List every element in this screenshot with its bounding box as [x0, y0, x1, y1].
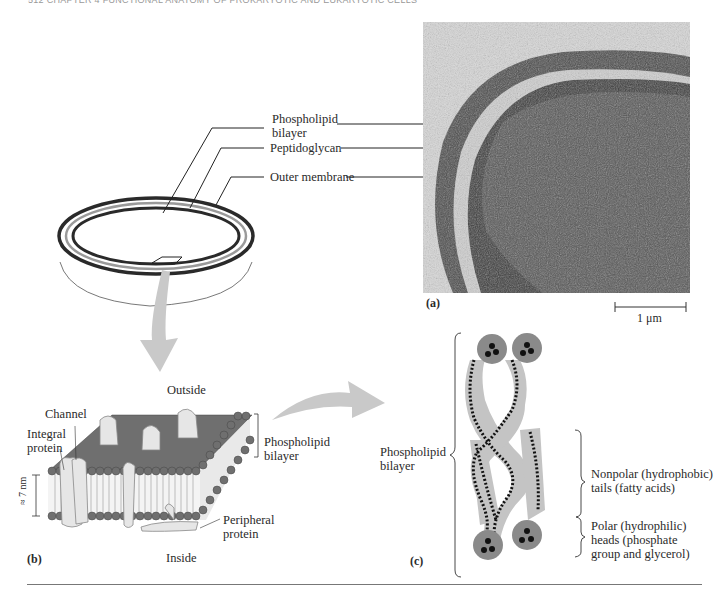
label-peripheral-protein: Peripheral protein	[223, 513, 274, 541]
label-outside: Outside	[167, 383, 206, 397]
panel-tag-c: (c)	[410, 554, 423, 569]
label-peptidoglycan: Peptidoglycan	[270, 141, 342, 155]
label-phospholipid-bilayer-a: Phospholipid bilayer	[272, 112, 338, 140]
label-polar-heads: Polar (hydrophilic) heads (phosphate gro…	[591, 519, 690, 561]
phospholipid-model	[450, 333, 585, 577]
label-outer-membrane: Outer membrane	[270, 170, 354, 184]
scale-bar-label: 1 μm	[637, 311, 662, 325]
label-inside: Inside	[166, 551, 197, 565]
label-phospholipid-bilayer-c: Phospholipid bilayer	[380, 445, 446, 473]
label-thickness: ≈ 7 nm	[16, 477, 30, 505]
label-channel: Channel	[45, 407, 87, 421]
arrow-right	[272, 381, 385, 420]
cell-envelope-diagram	[59, 124, 467, 306]
panel-tag-a: (a)	[426, 296, 440, 311]
label-phospholipid-bilayer-b: Phospholipid bilayer	[264, 435, 330, 463]
arrow-down	[140, 270, 178, 372]
label-nonpolar-tails: Nonpolar (hydrophobic) tails (fatty acid…	[591, 467, 713, 495]
electron-micrograph	[423, 22, 690, 293]
panel-tag-b: (b)	[27, 552, 42, 567]
label-integral-protein: Integral protein	[27, 427, 66, 455]
bottom-rule	[27, 584, 702, 585]
